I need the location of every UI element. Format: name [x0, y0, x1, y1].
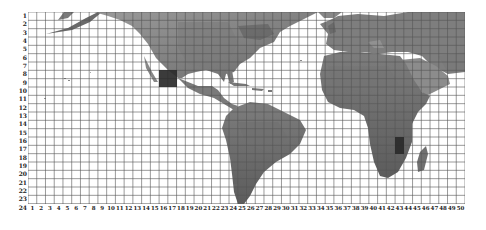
column-label: 48 [439, 204, 448, 212]
column-label: 39 [360, 204, 369, 212]
column-label: 33 [308, 204, 317, 212]
row-label: 8 [14, 70, 27, 78]
column-label: 49 [448, 204, 457, 212]
column-label: 32 [299, 204, 308, 212]
column-label: 25 [238, 204, 247, 212]
column-label: 38 [351, 204, 360, 212]
column-label: 37 [343, 204, 352, 212]
column-label: 41 [378, 204, 387, 212]
column-label: 8 [89, 204, 98, 212]
column-label: 1 [28, 204, 37, 212]
row-label: 24 [14, 204, 27, 212]
column-label: 17 [168, 204, 177, 212]
column-label: 35 [325, 204, 334, 212]
row-label: 14 [14, 120, 27, 128]
row-label: 17 [14, 145, 27, 153]
row-label: 5 [14, 45, 27, 53]
column-label: 5 [63, 204, 72, 212]
column-label: 36 [334, 204, 343, 212]
row-label: 2 [14, 20, 27, 28]
row-label: 13 [14, 112, 27, 120]
column-label: 26 [247, 204, 256, 212]
column-label: 23 [220, 204, 229, 212]
column-label: 46 [421, 204, 430, 212]
row-label: 20 [14, 170, 27, 178]
row-label: 12 [14, 104, 27, 112]
row-label: 3 [14, 29, 27, 37]
row-label: 9 [14, 79, 27, 87]
column-label: 16 [159, 204, 168, 212]
row-label: 23 [14, 195, 27, 203]
column-label: 47 [430, 204, 439, 212]
row-label: 21 [14, 179, 27, 187]
row-label: 16 [14, 137, 27, 145]
column-label: 42 [386, 204, 395, 212]
row-label: 22 [14, 187, 27, 195]
column-label: 45 [413, 204, 422, 212]
row-label: 6 [14, 54, 27, 62]
column-label: 27 [255, 204, 264, 212]
column-label: 9 [98, 204, 107, 212]
column-label: 7 [80, 204, 89, 212]
column-label: 4 [54, 204, 63, 212]
column-label: 22 [212, 204, 221, 212]
row-label: 11 [14, 95, 27, 103]
column-label: 13 [133, 204, 142, 212]
column-label: 10 [107, 204, 116, 212]
column-label: 43 [395, 204, 404, 212]
row-label: 7 [14, 62, 27, 70]
column-label: 29 [273, 204, 282, 212]
row-label: 18 [14, 154, 27, 162]
row-label: 4 [14, 37, 27, 45]
column-label: 40 [369, 204, 378, 212]
row-label: 19 [14, 162, 27, 170]
grid-overlay [28, 12, 465, 212]
column-label: 28 [264, 204, 273, 212]
column-label: 24 [229, 204, 238, 212]
highlighted-cell[interactable] [395, 137, 404, 154]
highlighted-cell[interactable] [159, 70, 176, 87]
row-label: 10 [14, 87, 27, 95]
column-label: 19 [185, 204, 194, 212]
column-label: 14 [142, 204, 151, 212]
column-label: 2 [37, 204, 46, 212]
column-label: 30 [281, 204, 290, 212]
column-label: 3 [45, 204, 54, 212]
column-label: 31 [290, 204, 299, 212]
row-label: 1 [14, 12, 27, 20]
column-label: 18 [177, 204, 186, 212]
row-label: 15 [14, 129, 27, 137]
column-label: 34 [316, 204, 325, 212]
column-label: 20 [194, 204, 203, 212]
column-label: 12 [124, 204, 133, 212]
column-label: 11 [115, 204, 124, 212]
column-label: 15 [150, 204, 159, 212]
column-label: 50 [456, 204, 465, 212]
column-label: 21 [203, 204, 212, 212]
column-label: 6 [72, 204, 81, 212]
column-label: 44 [404, 204, 413, 212]
